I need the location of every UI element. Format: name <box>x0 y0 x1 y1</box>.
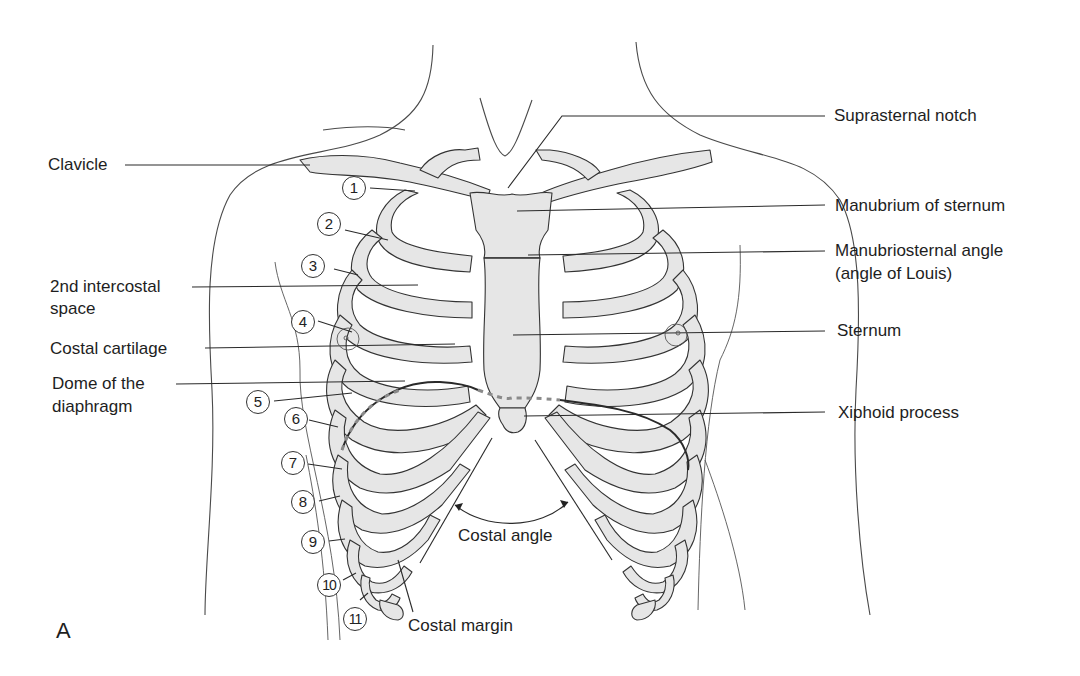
label-costal-margin: Costal margin <box>408 615 513 636</box>
label-costal-angle: Costal angle <box>458 525 553 546</box>
label-2nd-intercostal-space-line2: space <box>50 298 95 319</box>
label-clavicle: Clavicle <box>48 154 108 175</box>
label-dome-of-diaphragm-line1: Dome of the <box>52 373 145 394</box>
rib-number-9: 9 <box>301 530 325 554</box>
rib-number-8: 8 <box>291 490 315 514</box>
ribs-left <box>327 190 490 620</box>
panel-letter: A <box>56 618 71 644</box>
label-costal-cartilage: Costal cartilage <box>50 338 167 359</box>
label-suprasternal-notch: Suprasternal notch <box>834 105 977 126</box>
label-xiphoid-process: Xiphoid process <box>838 402 959 423</box>
rib-number-2: 2 <box>317 212 341 236</box>
label-sternum: Sternum <box>837 320 901 341</box>
rib-number-10: 10 <box>317 573 341 597</box>
rib-number-11: 11 <box>343 607 367 631</box>
label-manubrium-of-sternum: Manubrium of sternum <box>835 195 1005 216</box>
rib-number-1: 1 <box>342 176 366 200</box>
rib-number-6: 6 <box>284 407 308 431</box>
rib-number-7: 7 <box>281 451 305 475</box>
sternum-bone <box>470 192 552 432</box>
label-manubriosternal-angle-line1: Manubriosternal angle <box>835 240 1003 261</box>
thoracic-cage-diagram: Clavicle 2nd intercostal space Costal ca… <box>0 0 1080 676</box>
rib-number-3: 3 <box>301 254 325 278</box>
label-2nd-intercostal-space-line1: 2nd intercostal <box>50 276 161 297</box>
rib-number-4: 4 <box>291 310 315 334</box>
label-manubriosternal-angle-line2: (angle of Louis) <box>835 263 952 284</box>
label-dome-of-diaphragm-line2: diaphragm <box>52 396 132 417</box>
rib-number-5: 5 <box>246 390 270 414</box>
